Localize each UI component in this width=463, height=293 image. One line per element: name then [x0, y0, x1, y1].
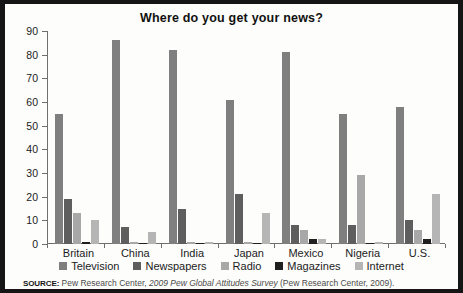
- y-tick-label: 50: [26, 120, 38, 132]
- x-tick: [161, 244, 162, 248]
- y-tick: 60: [42, 102, 47, 103]
- y-tick-label: 20: [26, 191, 38, 203]
- y-tick: 30: [42, 173, 47, 174]
- chart-legend: TelevisionNewspapersRadioMagazinesIntern…: [5, 260, 458, 272]
- bar: [300, 230, 308, 244]
- bar: [244, 242, 252, 244]
- legend-item-television[interactable]: Television: [59, 260, 119, 272]
- bar: [130, 242, 138, 244]
- source-note: SOURCE: Pew Research Center, 2009 Pew Gl…: [23, 278, 448, 288]
- legend-swatch-icon: [133, 262, 141, 270]
- x-axis-category-label: Britain: [63, 247, 94, 259]
- legend-label: Internet: [367, 260, 404, 272]
- bar: [82, 242, 90, 244]
- bar: [148, 232, 156, 244]
- bar: [414, 230, 422, 244]
- x-tick: [331, 244, 332, 248]
- bar: [226, 100, 234, 244]
- legend-item-radio[interactable]: Radio: [221, 260, 262, 272]
- bar-group: Japan: [226, 31, 273, 244]
- bar: [178, 209, 186, 245]
- source-text-after: (Pew Research Center, 2009).: [278, 278, 395, 288]
- plot-area: 0102030405060708090 BritainChinaIndiaJap…: [47, 31, 445, 244]
- y-tick-label: 70: [26, 72, 38, 84]
- y-tick-label: 40: [26, 143, 38, 155]
- legend-item-magazines[interactable]: Magazines: [275, 260, 340, 272]
- x-axis-category-label: India: [180, 247, 204, 259]
- y-tick-label: 30: [26, 167, 38, 179]
- bar: [309, 239, 317, 244]
- legend-label: Radio: [233, 260, 262, 272]
- x-tick: [274, 244, 275, 248]
- x-axis-category-label: Nigeria: [345, 247, 380, 259]
- bar-set: [226, 31, 273, 244]
- x-axis-category-label: Japan: [234, 247, 264, 259]
- bar-set: [339, 31, 386, 244]
- bar: [169, 50, 177, 244]
- bar-group: U.S.: [396, 31, 443, 244]
- legend-item-internet[interactable]: Internet: [355, 260, 404, 272]
- x-tick: [47, 244, 48, 248]
- legend-swatch-icon: [221, 262, 229, 270]
- bar: [205, 242, 213, 244]
- x-tick: [388, 244, 389, 248]
- legend-label: Magazines: [287, 260, 340, 272]
- bar-set: [55, 31, 102, 244]
- x-tick: [218, 244, 219, 248]
- bar-set: [282, 31, 329, 244]
- bar: [187, 242, 195, 244]
- legend-swatch-icon: [59, 262, 67, 270]
- bar-group: Britain: [55, 31, 102, 244]
- y-tick: 20: [42, 197, 47, 198]
- bar: [396, 107, 404, 244]
- y-axis-line: [47, 31, 48, 244]
- bar-set: [169, 31, 216, 244]
- y-tick: 40: [42, 149, 47, 150]
- source-label: SOURCE:: [23, 279, 59, 288]
- bar: [318, 239, 326, 244]
- y-tick-label: 90: [26, 25, 38, 37]
- bar: [64, 199, 72, 244]
- bar: [253, 243, 261, 244]
- y-tick: 50: [42, 126, 47, 127]
- bar: [366, 243, 374, 244]
- y-tick-label: 60: [26, 96, 38, 108]
- y-tick-label: 80: [26, 49, 38, 61]
- y-tick: 90: [42, 31, 47, 32]
- x-axis-category-label: China: [121, 247, 150, 259]
- bar: [91, 220, 99, 244]
- y-tick: 10: [42, 220, 47, 221]
- bar: [423, 239, 431, 244]
- bar-group: Mexico: [282, 31, 329, 244]
- bar: [375, 242, 383, 244]
- bar: [282, 52, 290, 244]
- legend-label: Television: [71, 260, 119, 272]
- legend-label: Newspapers: [145, 260, 206, 272]
- bar: [121, 227, 129, 244]
- y-tick: 70: [42, 78, 47, 79]
- bar-group: China: [112, 31, 159, 244]
- chart-screenshot: Where do you get your news? 010203040506…: [0, 0, 463, 293]
- x-axis-category-label: Mexico: [288, 247, 323, 259]
- bar: [139, 243, 147, 244]
- bar: [196, 243, 204, 244]
- legend-item-newspapers[interactable]: Newspapers: [133, 260, 206, 272]
- source-survey-name: 2009 Pew Global Attitudes Survey: [149, 278, 278, 288]
- y-tick-label: 10: [26, 214, 38, 226]
- x-tick: [104, 244, 105, 248]
- bar: [357, 175, 365, 244]
- bar: [55, 114, 63, 244]
- bar-set: [396, 31, 443, 244]
- y-tick: 80: [42, 55, 47, 56]
- legend-swatch-icon: [275, 262, 283, 270]
- x-tick: [445, 244, 446, 248]
- y-tick-label: 0: [32, 238, 38, 250]
- chart-title: Where do you get your news?: [5, 11, 458, 25]
- bar: [73, 213, 81, 244]
- source-text-before: Pew Research Center,: [59, 278, 149, 288]
- x-axis-category-label: U.S.: [409, 247, 430, 259]
- legend-swatch-icon: [355, 262, 363, 270]
- bar-group: India: [169, 31, 216, 244]
- bar: [262, 213, 270, 244]
- bar: [432, 194, 440, 244]
